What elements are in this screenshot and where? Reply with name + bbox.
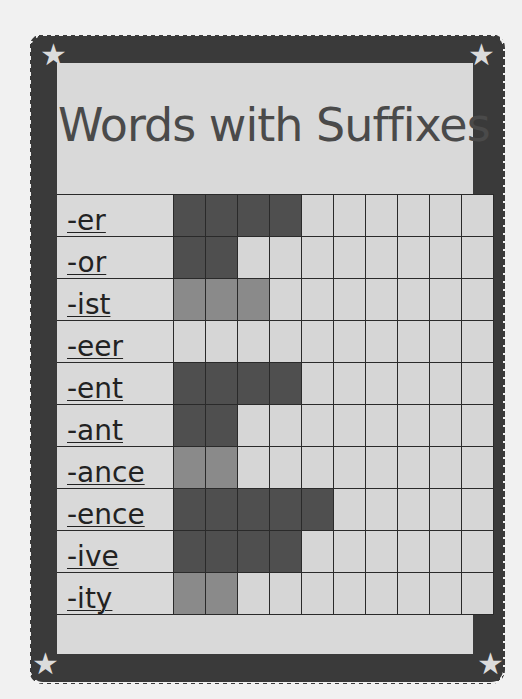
empty-cell (397, 489, 429, 531)
empty-cell (333, 405, 365, 447)
empty-cell (461, 531, 493, 573)
empty-cell (237, 447, 269, 489)
filled-cell (173, 489, 205, 531)
empty-cell (269, 279, 301, 321)
empty-cell (461, 195, 493, 237)
empty-cell (461, 363, 493, 405)
filled-cell (205, 489, 237, 531)
filled-cell (237, 489, 269, 531)
empty-cell (461, 405, 493, 447)
empty-cell (365, 237, 397, 279)
empty-cell (237, 321, 269, 363)
empty-cell (301, 321, 333, 363)
empty-cell (365, 279, 397, 321)
filled-cell (237, 195, 269, 237)
empty-cell (365, 195, 397, 237)
empty-cell (461, 279, 493, 321)
table-row: -ance (57, 447, 493, 489)
empty-cell (301, 531, 333, 573)
empty-cell (333, 363, 365, 405)
empty-cell (397, 573, 429, 615)
empty-cell (429, 237, 461, 279)
empty-cell (333, 237, 365, 279)
empty-cell (429, 195, 461, 237)
empty-cell (301, 279, 333, 321)
table-row: -or (57, 237, 493, 279)
empty-cell (301, 573, 333, 615)
empty-cell (429, 321, 461, 363)
empty-cell (461, 489, 493, 531)
empty-cell (269, 573, 301, 615)
filled-cell (205, 279, 237, 321)
empty-cell (397, 447, 429, 489)
table-row: -ist (57, 279, 493, 321)
empty-cell (333, 531, 365, 573)
empty-cell (301, 363, 333, 405)
empty-cell (269, 447, 301, 489)
empty-cell (365, 321, 397, 363)
star-icon: ★ (477, 651, 503, 677)
suffix-label: -eer (57, 321, 173, 363)
filled-cell (205, 405, 237, 447)
empty-cell (301, 447, 333, 489)
empty-cell (301, 237, 333, 279)
star-icon: ★ (32, 651, 58, 677)
empty-cell (461, 237, 493, 279)
empty-cell (205, 321, 237, 363)
empty-cell (461, 447, 493, 489)
table-row: -ant (57, 405, 493, 447)
suffix-label: -ant (57, 405, 173, 447)
filled-cell (205, 195, 237, 237)
empty-cell (333, 195, 365, 237)
table-row: -eer (57, 321, 493, 363)
filled-cell (269, 531, 301, 573)
empty-cell (429, 489, 461, 531)
filled-cell (269, 195, 301, 237)
filled-cell (205, 531, 237, 573)
empty-cell (397, 237, 429, 279)
filled-cell (205, 237, 237, 279)
empty-cell (429, 405, 461, 447)
empty-cell (429, 447, 461, 489)
suffix-label: -ence (57, 489, 173, 531)
empty-cell (333, 321, 365, 363)
filled-cell (237, 363, 269, 405)
empty-cell (333, 279, 365, 321)
empty-cell (397, 321, 429, 363)
empty-cell (397, 363, 429, 405)
empty-cell (429, 279, 461, 321)
table-row: -ity (57, 573, 493, 615)
table-row: -ent (57, 363, 493, 405)
star-icon: ★ (468, 42, 494, 68)
empty-cell (333, 489, 365, 531)
empty-cell (365, 447, 397, 489)
filled-cell (301, 489, 333, 531)
filled-cell (237, 531, 269, 573)
filled-cell (205, 447, 237, 489)
empty-cell (397, 279, 429, 321)
suffix-label: -er (57, 195, 173, 237)
empty-cell (429, 531, 461, 573)
empty-cell (237, 405, 269, 447)
empty-cell (173, 321, 205, 363)
filled-cell (269, 363, 301, 405)
filled-cell (173, 279, 205, 321)
filled-cell (173, 531, 205, 573)
empty-cell (269, 405, 301, 447)
chart-title: Words with Suffixes (58, 98, 472, 152)
empty-cell (429, 363, 461, 405)
empty-cell (333, 573, 365, 615)
filled-cell (173, 195, 205, 237)
empty-cell (365, 531, 397, 573)
filled-cell (173, 573, 205, 615)
suffix-label: -ent (57, 363, 173, 405)
empty-cell (365, 363, 397, 405)
filled-cell (173, 363, 205, 405)
empty-cell (365, 405, 397, 447)
empty-cell (269, 237, 301, 279)
empty-cell (237, 237, 269, 279)
suffix-label: -ance (57, 447, 173, 489)
filled-cell (173, 405, 205, 447)
empty-cell (397, 405, 429, 447)
filled-cell (237, 279, 269, 321)
